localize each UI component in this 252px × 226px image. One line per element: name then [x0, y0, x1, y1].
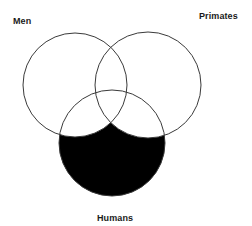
venn-diagram-canvas: Men Primates Humans	[0, 0, 252, 226]
venn-diagram-svg	[0, 0, 252, 226]
shaded-region-humans-only	[0, 0, 252, 226]
venn-label-humans: Humans	[97, 213, 133, 223]
venn-label-primates: Primates	[199, 11, 238, 21]
venn-label-men: Men	[13, 16, 31, 26]
